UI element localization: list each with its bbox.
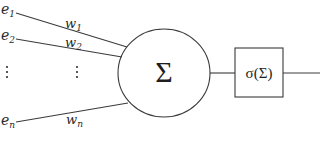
input-label-2: e2 [1, 27, 15, 45]
input-label-n: en [1, 112, 15, 130]
input-ellipsis-icon [6, 66, 8, 78]
weight-label-1: w1 [65, 16, 82, 33]
input-label-1: e1 [1, 1, 15, 19]
perceptron-diagram: e1 e2 en w1 w2 wn Σ σ(Σ) [0, 0, 324, 141]
sigma-symbol: Σ [155, 55, 172, 88]
weight-label-n: wn [66, 112, 83, 129]
weight-ellipsis-icon [76, 66, 78, 78]
weight-label-2: w2 [65, 35, 82, 52]
activation-label: σ(Σ) [246, 65, 273, 82]
